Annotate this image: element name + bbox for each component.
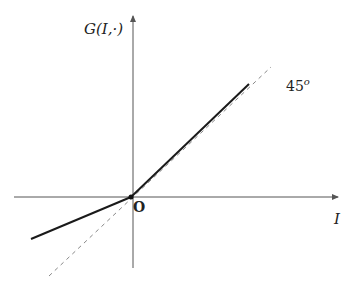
angle-label: 45o <box>286 76 310 94</box>
y-axis-label: G(I,·) <box>84 20 123 38</box>
degree-symbol: o <box>304 76 310 87</box>
reference-45-degree-line <box>49 67 271 276</box>
angle-value: 45 <box>286 78 304 94</box>
x-axis-label: I <box>334 210 340 228</box>
function-segment-positive <box>131 84 249 197</box>
function-segment-negative <box>31 197 131 239</box>
function-diagram <box>0 0 354 289</box>
origin-label: O <box>133 199 145 215</box>
y-axis-label-text: G(I,·) <box>84 20 123 38</box>
